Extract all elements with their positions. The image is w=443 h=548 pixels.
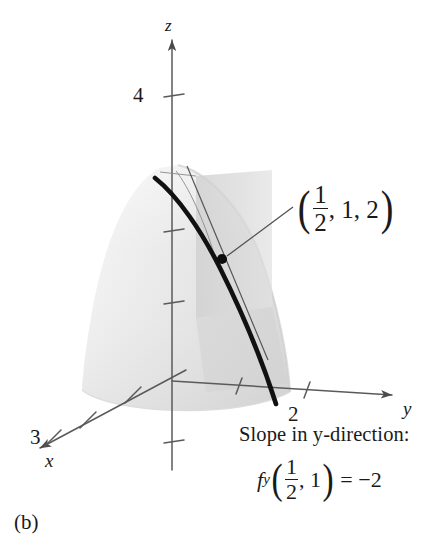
figure-caption: (b) [14,512,39,533]
point-label-numerator: 1 [313,182,328,208]
y-axis-tick-label-2: 2 [288,404,299,425]
slope-caption-text: Slope in y-direction: [239,423,410,445]
x-axis-label: x [45,451,53,470]
y-axis-label: y [403,399,411,418]
formula-close-paren: ) [323,466,334,493]
point-coordinate-label: ( 1 2 , 1, 2 ) [296,182,395,236]
z-tick-4 [164,94,184,97]
formula-open-paren: ( [271,466,282,493]
point-label-open-paren: ( [298,193,311,223]
point-label-denominator: 2 [313,210,328,236]
formula-fraction: 1 2 [285,456,298,504]
point-label-fraction: 1 2 [313,182,328,236]
z-axis-tick-label-4: 4 [133,85,144,106]
x-axis-tick-label-3: 3 [30,427,41,448]
formula-denominator: 2 [285,481,298,503]
formula-rest: , 1 [299,469,321,491]
marked-point [217,254,227,264]
formula-equals-value: = −2 [340,469,381,491]
formula-subscript: y [263,472,270,487]
point-label-rest: , 1, 2 [329,197,379,222]
point-label-close-paren: ) [381,193,394,223]
cutting-plane [196,170,288,392]
z-axis-label: z [165,17,172,34]
formula-numerator: 1 [285,456,298,478]
partial-derivative-formula: f y ( 1 2 , 1 ) = −2 [257,456,382,504]
slope-direction-caption: Slope in y-direction: [239,424,410,445]
